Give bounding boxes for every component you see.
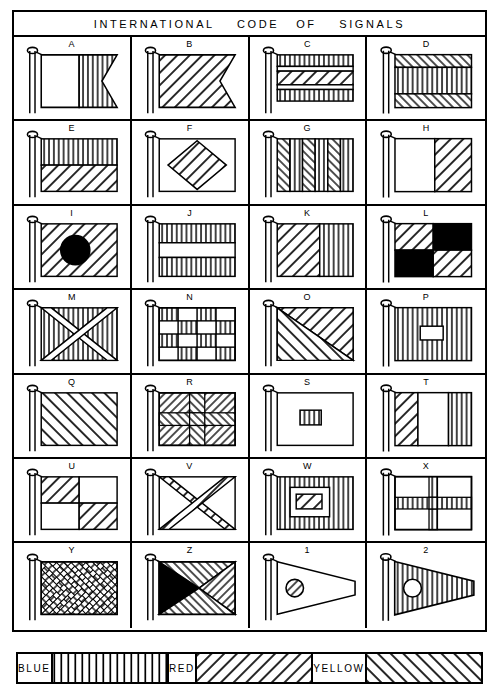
flag-cell-b[interactable]: B [132,37,250,121]
flag-cell-u[interactable]: U [14,459,132,543]
flag-graphic-d [367,37,485,119]
flag-graphic-l [367,206,485,288]
flag-graphic-s [250,375,366,457]
legend-label-blue: BLUE [18,654,53,682]
flag-graphic-r [132,375,248,457]
flag-graphic-p [367,290,485,372]
flag-graphic-2 [367,543,485,627]
legend-label-red: RED [169,654,197,682]
flag-cell-d[interactable]: D [367,37,485,121]
flag-cell-1[interactable]: 1 [250,543,368,627]
flag-cell-p[interactable]: P [367,290,485,374]
flag-cell-j[interactable]: J [132,206,250,290]
flag-cell-h[interactable]: H [367,121,485,205]
flag-cell-v[interactable]: V [132,459,250,543]
flag-graphic-q [14,375,130,457]
flag-cell-f[interactable]: F [132,121,250,205]
legend-swatch-blue [53,654,169,682]
flag-graphic-1 [250,543,366,627]
flag-graphic-j [132,206,248,288]
legend-swatch-red [197,654,313,682]
flag-cell-2[interactable]: 2 [367,543,485,627]
chart-frame: INTERNATIONAL CODE OF SIGNALS ABCDEFGHIJ… [12,10,487,632]
flag-graphic-c [250,37,366,119]
flag-cell-q[interactable]: Q [14,375,132,459]
flag-graphic-f [132,121,248,203]
flag-graphic-x [367,459,485,541]
flag-graphic-m [14,290,130,372]
flag-graphic-t [367,375,485,457]
flag-graphic-o [250,290,366,372]
flag-graphic-i [14,206,130,288]
flag-grid: ABCDEFGHIJKL MNOPQRSTU VWXYZ12 [14,37,485,628]
flag-cell-x[interactable]: X [367,459,485,543]
flag-cell-s[interactable]: S [250,375,368,459]
flag-graphic-e [14,121,130,203]
flag-cell-g[interactable]: G [250,121,368,205]
flag-cell-a[interactable]: A [14,37,132,121]
flag-cell-m[interactable]: M [14,290,132,374]
flag-graphic-h [367,121,485,203]
flag-cell-l[interactable]: L [367,206,485,290]
flag-cell-c[interactable]: C [250,37,368,121]
page-title: INTERNATIONAL CODE OF SIGNALS [94,18,405,30]
flag-cell-r[interactable]: R [132,375,250,459]
chart-title-bar: INTERNATIONAL CODE OF SIGNALS [14,12,485,37]
flag-graphic-w [250,459,366,541]
signal-flag-chart-sheet: INTERNATIONAL CODE OF SIGNALS ABCDEFGHIJ… [0,0,499,699]
flag-graphic-g [250,121,366,203]
flag-graphic-v [132,459,248,541]
flag-cell-o[interactable]: O [250,290,368,374]
flag-cell-i[interactable]: I [14,206,132,290]
flag-graphic-k [250,206,366,288]
legend-label-yellow: YELLOW [313,654,366,682]
legend: BLUEREDYELLOW [16,652,483,684]
legend-swatch-yellow [367,654,481,682]
flag-graphic-z [132,543,248,627]
flag-cell-z[interactable]: Z [132,543,250,627]
flag-cell-n[interactable]: N [132,290,250,374]
flag-cell-t[interactable]: T [367,375,485,459]
flag-graphic-b [132,37,248,119]
flag-graphic-n [132,290,248,372]
flag-cell-e[interactable]: E [14,121,132,205]
flag-graphic-a [14,37,130,119]
flag-cell-y[interactable]: Y [14,543,132,627]
flag-graphic-y [14,543,130,627]
flag-graphic-u [14,459,130,541]
flag-cell-k[interactable]: K [250,206,368,290]
flag-cell-w[interactable]: W [250,459,368,543]
